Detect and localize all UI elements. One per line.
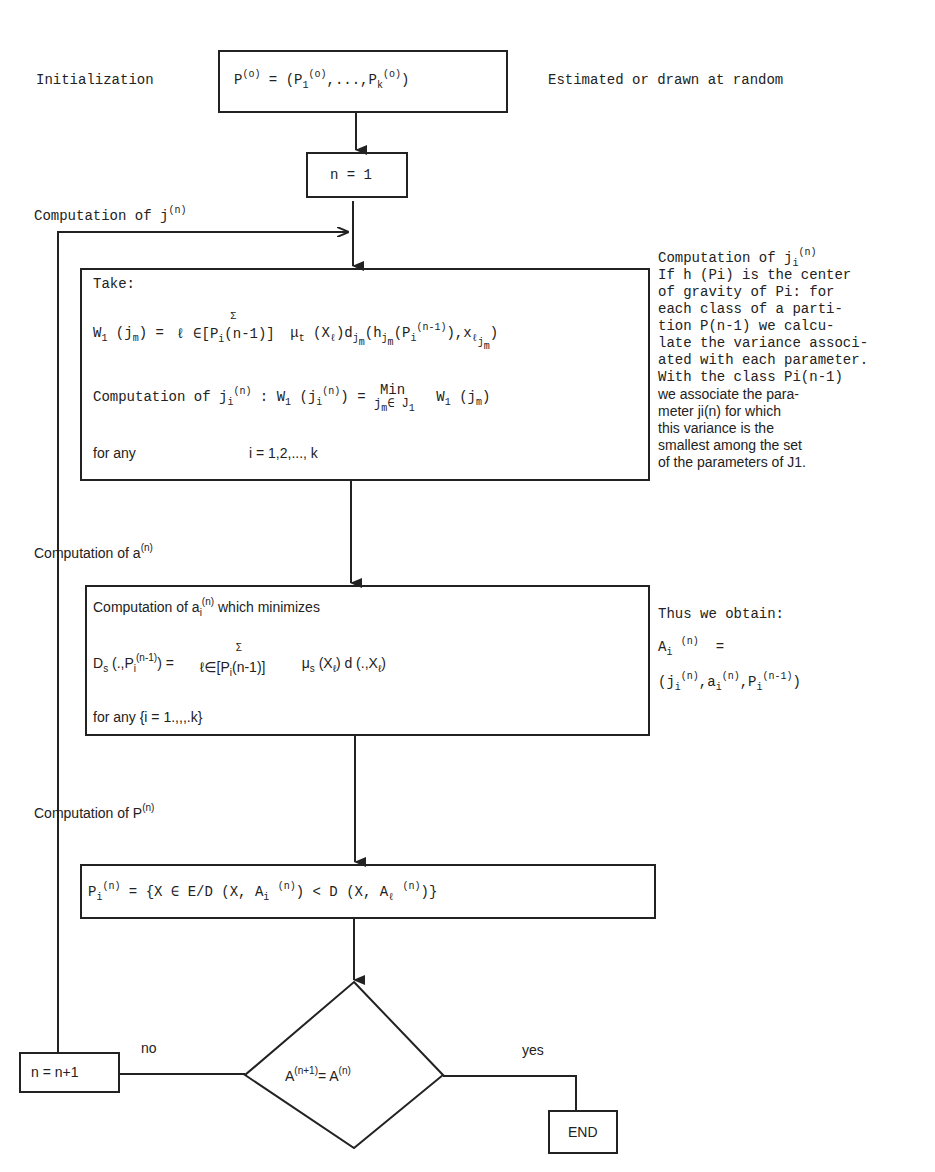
note-j-line: ated with each parameter. (658, 352, 868, 369)
decision-text: A(n+1)= A(n) (285, 1068, 351, 1085)
note-j-line: this variance is the (658, 420, 868, 437)
comp-a-line: Computation of ai(n) which minimizes (93, 599, 320, 616)
box-compute-p: Pi(n) = {X ∈ E/D (X, Ai (n)) < D (X, Aℓ … (80, 864, 656, 919)
n-init-text: n = 1 (330, 167, 372, 184)
init-box: P(o) = (P1(o),...,Pk(o)) (218, 50, 508, 113)
w-formula: W1 (jm) = Σ ℓ ∈[Pi(n-1)] μt (Xℓ)djm(hjm(… (93, 320, 498, 347)
note-j-line: meter ji(n) for which (658, 403, 868, 420)
note-j-line: we associate the para- (658, 386, 868, 403)
end-box: END (548, 1110, 618, 1154)
init-note: Estimated or drawn at random (548, 72, 783, 89)
range-j: i = 1,2,..., k (249, 445, 318, 462)
note-compute-a: Thus we obtain: Ai (n) = (ji(n),ai(n),Pi… (658, 606, 801, 691)
note-compute-j: Computation of ji(n) If h (Pi) is the ce… (658, 250, 868, 471)
note-j-line: smallest among the set (658, 437, 868, 454)
note-a-title: Thus we obtain: (658, 606, 801, 623)
note-j-line: If h (Pi) is the center (658, 267, 868, 284)
for-any-label-j: for any (93, 445, 136, 462)
for-any-a: for any {i = 1.,,,.k} (93, 709, 202, 726)
no-label: no (141, 1040, 157, 1057)
init-label: Initialization (36, 72, 154, 89)
loop-label-a: Computation of a(n) (34, 545, 153, 562)
box-compute-j: Take: W1 (jm) = Σ ℓ ∈[Pi(n-1)] μt (Xℓ)dj… (80, 268, 650, 481)
note-j-line: of the parameters of J1. (658, 454, 868, 471)
note-j-line: late the variance associ- (658, 335, 868, 352)
loop-label-p: Computation of P(n) (34, 805, 154, 822)
comp-j-line: Computation of ji(n) : W1 (ji(n)) = Min … (93, 384, 490, 406)
box-compute-a: Computation of ai(n) which minimizes Ds … (85, 585, 650, 736)
yes-branch-line (443, 1076, 576, 1110)
note-j-line: of gravity of Pi: for (658, 284, 868, 301)
note-j-title: Computation of ji(n) (658, 250, 868, 267)
note-a-line2: Ai (n) = (658, 639, 801, 656)
note-j-line: each class of a parti- (658, 301, 868, 318)
p-formula: Pi(n) = {X ∈ E/D (X, Ai (n)) < D (X, Aℓ … (88, 884, 437, 901)
yes-label: yes (522, 1042, 544, 1059)
end-text: END (568, 1124, 598, 1141)
n-init-box: n = 1 (306, 152, 408, 198)
note-j-line: With the class Pi(n-1) (658, 369, 868, 386)
d-formula: Ds (.,Pi(n-1)) = Σ ℓ∈[Pi(n-1)] μs (Xℓ) d… (93, 651, 386, 672)
take-label: Take: (93, 276, 135, 293)
init-formula: P(o) = (P1(o),...,Pk(o)) (234, 72, 409, 89)
loop-label-j: Computation of j(n) (34, 208, 186, 225)
note-a-line3: (ji(n),ai(n),Pi(n-1)) (658, 674, 801, 691)
increment-box: n = n+1 (19, 1052, 120, 1093)
increment-text: n = n+1 (31, 1064, 79, 1081)
note-j-line: tion P(n-1) we calcu- (658, 318, 868, 335)
